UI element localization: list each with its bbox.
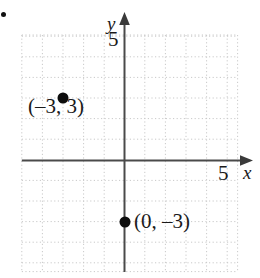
plot-area: (–3, 3) (0, –3) y x 5 5 — [0, 0, 260, 278]
x-axis-tick-label-5: 5 — [218, 163, 229, 184]
y-axis — [119, 12, 130, 272]
axes — [0, 0, 260, 278]
data-point — [119, 217, 130, 228]
data-point-label: (–3, 3) — [28, 96, 84, 117]
y-axis-tick-label-5: 5 — [108, 29, 119, 50]
x-axis-label: x — [243, 163, 251, 182]
coordinate-plane-figure: (–3, 3) (0, –3) y x 5 5 — [0, 0, 260, 278]
data-point-label: (0, –3) — [134, 211, 190, 232]
